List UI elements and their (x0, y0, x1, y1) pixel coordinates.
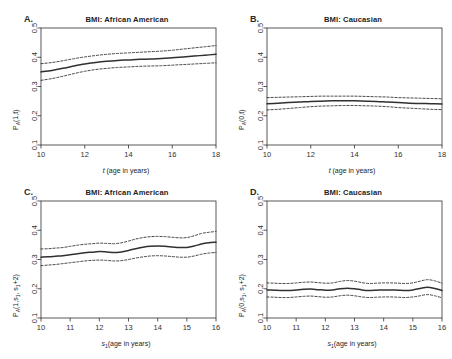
svg-text:0.4: 0.4 (256, 225, 265, 235)
panel-b: B. BMI: Caucasian 0.10.20.30.40.51012141… (226, 12, 452, 185)
panel-a: A. BMI: African American 0.10.20.30.40.5… (0, 12, 226, 185)
panel-d-y-axis-label: PA(0,s1, s1+2) (238, 274, 247, 317)
panel-a-x-axis-label: t (age in years) (0, 167, 226, 174)
svg-text:13: 13 (124, 323, 132, 332)
svg-text:16: 16 (394, 150, 402, 159)
svg-text:12: 12 (81, 150, 89, 159)
panel-b-plot: 0.10.20.30.40.51012141618 (226, 12, 452, 185)
panel-a-y-axis-label: PA(1,t) (12, 110, 21, 130)
panel-a-chart-svg: 0.10.20.30.40.51012141618 (0, 12, 226, 185)
page-header (0, 0, 452, 10)
svg-text:10: 10 (263, 150, 271, 159)
panel-d-x-axis-label: s1(age in years) (226, 340, 452, 349)
svg-text:10: 10 (37, 323, 45, 332)
svg-text:0.4: 0.4 (30, 52, 39, 62)
svg-text:0.1: 0.1 (30, 140, 39, 150)
panel-c-plot: 0.10.20.30.40.510111213141516 (0, 185, 226, 358)
svg-text:0.1: 0.1 (256, 140, 265, 150)
svg-text:0.1: 0.1 (256, 313, 265, 323)
panel-b-y-axis-label: PA(0,t) (238, 110, 247, 130)
svg-text:0.5: 0.5 (256, 23, 265, 33)
panel-d: D. BMI: Caucasian 0.10.20.30.40.51011121… (226, 185, 452, 358)
panel-d-chart-svg: 0.10.20.30.40.510111213141516 (226, 185, 452, 358)
svg-text:16: 16 (168, 150, 176, 159)
panel-c-x-axis-label: s1(age in years) (0, 340, 226, 349)
panel-d-plot: 0.10.20.30.40.510111213141516 (226, 185, 452, 358)
svg-text:0.2: 0.2 (256, 111, 265, 121)
svg-text:0.4: 0.4 (30, 225, 39, 235)
svg-text:0.2: 0.2 (256, 284, 265, 294)
svg-text:14: 14 (350, 150, 358, 159)
svg-text:14: 14 (124, 150, 132, 159)
panel-a-plot: 0.10.20.30.40.51012141618 (0, 12, 226, 185)
svg-text:11: 11 (292, 323, 300, 332)
svg-text:0.2: 0.2 (30, 284, 39, 294)
svg-text:0.1: 0.1 (30, 313, 39, 323)
panel-b-x-axis-label: t (age in years) (226, 167, 452, 174)
panel-c: C. BMI: African American 0.10.20.30.40.5… (0, 185, 226, 358)
svg-text:11: 11 (66, 323, 74, 332)
svg-text:18: 18 (438, 150, 446, 159)
svg-text:15: 15 (183, 323, 191, 332)
svg-text:12: 12 (95, 323, 103, 332)
panel-c-chart-svg: 0.10.20.30.40.510111213141516 (0, 185, 226, 358)
svg-text:0.3: 0.3 (256, 254, 265, 264)
svg-text:12: 12 (307, 150, 315, 159)
svg-text:14: 14 (379, 323, 387, 332)
svg-text:0.3: 0.3 (256, 81, 265, 91)
svg-text:0.5: 0.5 (30, 23, 39, 33)
svg-text:16: 16 (212, 323, 220, 332)
svg-text:15: 15 (409, 323, 417, 332)
svg-text:0.5: 0.5 (30, 196, 39, 206)
svg-text:0.3: 0.3 (30, 81, 39, 91)
svg-text:10: 10 (37, 150, 45, 159)
panel-c-y-axis-label: PA(1,s1, s1+2) (12, 274, 21, 317)
panel-b-chart-svg: 0.10.20.30.40.51012141618 (226, 12, 452, 185)
figure-panel-grid: A. BMI: African American 0.10.20.30.40.5… (0, 12, 452, 359)
svg-text:12: 12 (321, 323, 329, 332)
svg-text:0.5: 0.5 (256, 196, 265, 206)
svg-text:0.2: 0.2 (30, 111, 39, 121)
svg-text:16: 16 (438, 323, 446, 332)
svg-text:0.3: 0.3 (30, 254, 39, 264)
svg-text:14: 14 (153, 323, 161, 332)
svg-text:13: 13 (350, 323, 358, 332)
svg-text:18: 18 (212, 150, 220, 159)
svg-text:10: 10 (263, 323, 271, 332)
svg-text:0.4: 0.4 (256, 52, 265, 62)
